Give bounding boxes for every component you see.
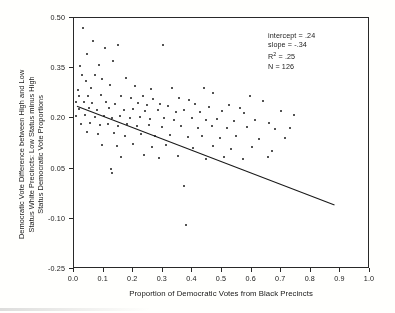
y-axis-title: Democratic Vote Difference between High … [17,29,46,279]
y-axis-title-line-1: Democratic Vote Difference between High … [17,29,27,279]
y-tick-label: -0.25 [48,264,65,273]
x-tick [221,268,222,272]
intercept-label: intercept = .24 [268,31,315,40]
x-tick [339,268,340,272]
regression-line [74,18,370,269]
r-squared-label: R2 = .25 [268,50,315,62]
y-tick [69,17,73,18]
y-tick-label: 0.50 [51,13,65,22]
r-squared-value: = .25 [276,52,295,61]
x-tick-label: 0.4 [186,274,196,283]
y-tick [69,268,73,269]
scatter-plot-figure: 0.00.10.20.30.40.50.60.70.80.91.0 0.500.… [0,0,395,313]
statistics-annotation: intercept = .24 slope = -.34 R2 = .25 N … [268,31,315,71]
x-tick [103,268,104,272]
slope-label: slope = -.34 [268,40,315,49]
plot-area [73,17,369,268]
x-tick-label: 0.1 [97,274,107,283]
y-tick [69,117,73,118]
x-tick-label: 0.3 [157,274,167,283]
x-tick [191,268,192,272]
x-tick-label: 0.6 [245,274,255,283]
y-tick-label: 0.20 [51,113,65,122]
y-tick-label: 0.05 [51,163,65,172]
y-tick-label: -0.10 [48,213,65,222]
x-tick [73,268,74,272]
x-tick [251,268,252,272]
x-tick [369,268,370,272]
x-tick-label: 0.9 [334,274,344,283]
y-tick [69,168,73,169]
sample-size-label: N = 126 [268,62,315,71]
x-tick [310,268,311,272]
y-tick [69,67,73,68]
x-tick [280,268,281,272]
x-tick [162,268,163,272]
x-tick-label: 0.5 [216,274,226,283]
x-tick-label: 0.2 [127,274,137,283]
x-tick-label: 0.8 [305,274,315,283]
scan-artifact [0,308,150,311]
x-tick-label: 1.0 [364,274,374,283]
y-tick [69,218,73,219]
x-axis-title: Proportion of Democratic Votes from Blac… [73,289,369,298]
y-axis-title-line-3: Status Democratic Vote Proportions [36,29,46,279]
x-tick-label: 0.0 [68,274,78,283]
y-tick-label: 0.35 [51,63,65,72]
x-tick [132,268,133,272]
x-tick-label: 0.7 [275,274,285,283]
y-axis-title-line-2: Status White Precincts: Low Status minus… [26,29,36,279]
